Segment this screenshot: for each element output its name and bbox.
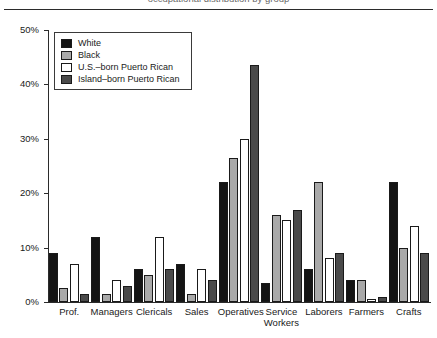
x-axis-label: Laborers [303, 306, 345, 317]
legend-item-label: U.S.–born Puerto Rican [78, 62, 173, 72]
bar [325, 258, 334, 302]
bar [399, 248, 408, 302]
x-axis-label: Prof. [48, 306, 90, 317]
legend-swatch-icon [61, 63, 72, 72]
bar [187, 294, 196, 302]
x-axis-label: Crafts [388, 306, 430, 317]
legend-item[interactable]: White [61, 37, 186, 49]
bar [112, 280, 121, 302]
legend-swatch-icon [61, 51, 72, 60]
legend-item[interactable]: Island–born Puerto Rican [61, 73, 186, 85]
bar-group [261, 30, 302, 302]
legend-item-label: White [78, 38, 101, 48]
bar-group [304, 30, 345, 302]
x-axis-label: Farmers [345, 306, 387, 317]
bar [410, 226, 419, 302]
legend-swatch-icon [61, 75, 72, 84]
bar [304, 269, 313, 302]
bar [420, 253, 429, 302]
bar [91, 237, 100, 302]
bar [314, 182, 323, 302]
bar [261, 283, 270, 302]
x-axis-label: Clericals [133, 306, 175, 317]
bar [123, 286, 132, 302]
bar [134, 269, 143, 302]
bar [240, 139, 249, 302]
y-axis-tick-label: 20% [20, 187, 39, 198]
bar [250, 65, 259, 302]
x-axis-label: Service Workers [260, 306, 302, 328]
bar [272, 215, 281, 302]
legend-swatch-icon [61, 39, 72, 48]
bar [378, 297, 387, 302]
bar [59, 288, 68, 302]
x-axis-label: Managers [90, 306, 132, 317]
bar [335, 253, 344, 302]
x-axis [48, 302, 431, 303]
chart-legend: WhiteBlackU.S.–born Puerto RicanIsland–b… [54, 32, 192, 90]
legend-item[interactable]: Black [61, 49, 186, 61]
legend-item-label: Island–born Puerto Rican [78, 74, 180, 84]
bar-group [346, 30, 387, 302]
x-axis-label: Sales [175, 306, 217, 317]
bar [155, 237, 164, 302]
y-axis-tick-label: 40% [20, 78, 39, 89]
legend-item-label: Black [78, 50, 100, 60]
y-axis-tick-label: 30% [20, 133, 39, 144]
y-axis-tick-label: 50% [20, 24, 39, 35]
bar [357, 280, 366, 302]
bar [70, 264, 79, 302]
bar [229, 158, 238, 302]
bar [367, 299, 376, 302]
bar [49, 253, 58, 302]
bar [144, 275, 153, 302]
bar [346, 280, 355, 302]
bar [102, 294, 111, 302]
bar-group [219, 30, 260, 302]
bar [389, 182, 398, 302]
bar [208, 280, 217, 302]
y-axis-tick-label: 0% [25, 296, 39, 307]
bar [293, 210, 302, 302]
x-axis-label: Operatives [218, 306, 260, 317]
legend-item[interactable]: U.S.–born Puerto Rican [61, 61, 186, 73]
bar [197, 269, 206, 302]
bar [165, 269, 174, 302]
bar [219, 182, 228, 302]
bar [176, 264, 185, 302]
bar-group [389, 30, 430, 302]
y-axis-tick-label: 10% [20, 242, 39, 253]
bar [282, 220, 291, 302]
bar [80, 294, 89, 302]
